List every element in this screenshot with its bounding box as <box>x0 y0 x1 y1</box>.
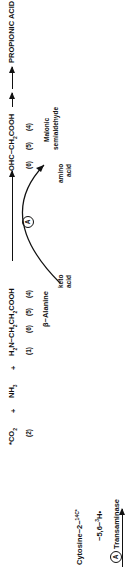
malonic-pos-5: (5) <box>26 142 33 150</box>
malonic-name-2: semialdehyde <box>53 107 60 150</box>
amino-acid-label-2: acid <box>66 164 73 177</box>
reaction-arrow-3 <box>12 93 13 107</box>
keto-acid-label-1: keto <box>58 275 65 288</box>
reaction-arrow-4 <box>12 67 13 89</box>
malonic-formula: OHC−CH2COOH <box>8 114 16 171</box>
malonic-pos-6: (6) <box>26 161 33 169</box>
pathway-diagram: Cytosine−2−14C* −5,6−3H• A Transaminase … <box>0 0 136 585</box>
amino-acid-label-1: amino <box>58 164 65 183</box>
transamination-curve <box>0 0 136 585</box>
propionic-acid-label: PROPIONIC ACID <box>8 1 16 63</box>
malonic-name-1: Malonic <box>44 118 51 142</box>
malonic-pos-4: (4) <box>26 123 33 131</box>
keto-acid-label-2: acid <box>66 275 73 288</box>
enzyme-marker: A <box>22 216 34 228</box>
